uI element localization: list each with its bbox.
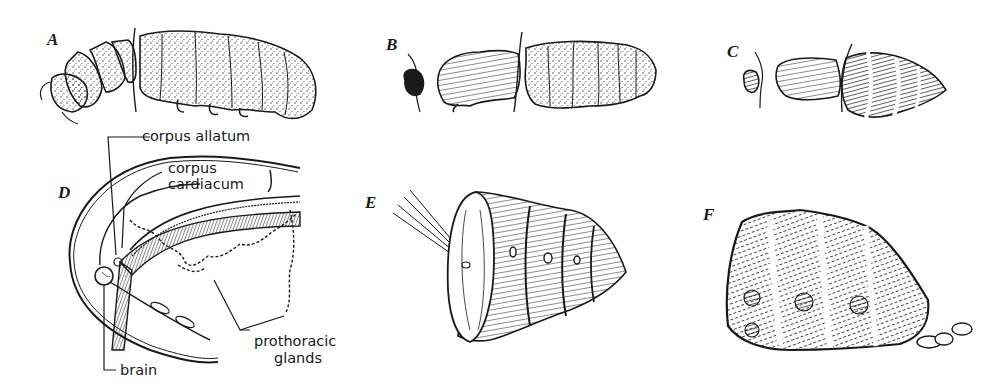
label-prothoracic-glands-line2: glands: [274, 350, 322, 367]
larva-b-illustration: [404, 32, 656, 112]
panel-label-d: D: [58, 183, 70, 203]
label-brain: brain: [120, 362, 157, 379]
panel-label-a: A: [47, 30, 58, 50]
label-corpus-cardiacum-line2: cardiacum: [168, 176, 244, 193]
figure-artwork: [0, 0, 1005, 386]
puparium-f-illustration: [727, 210, 972, 350]
panel-label-c: C: [727, 42, 738, 62]
label-corpus-cardiacum-line1: corpus: [168, 160, 217, 177]
label-prothoracic-glands-line1: prothoracic: [254, 333, 336, 350]
larva-a-illustration: [40, 28, 315, 124]
larva-c-illustration: [744, 44, 946, 118]
panel-label-f: F: [703, 205, 714, 225]
abdomen-e-illustration: [393, 190, 626, 342]
panel-label-b: B: [386, 35, 397, 55]
label-corpus-allatum: corpus allatum: [142, 128, 250, 145]
panel-label-e: E: [365, 193, 376, 213]
